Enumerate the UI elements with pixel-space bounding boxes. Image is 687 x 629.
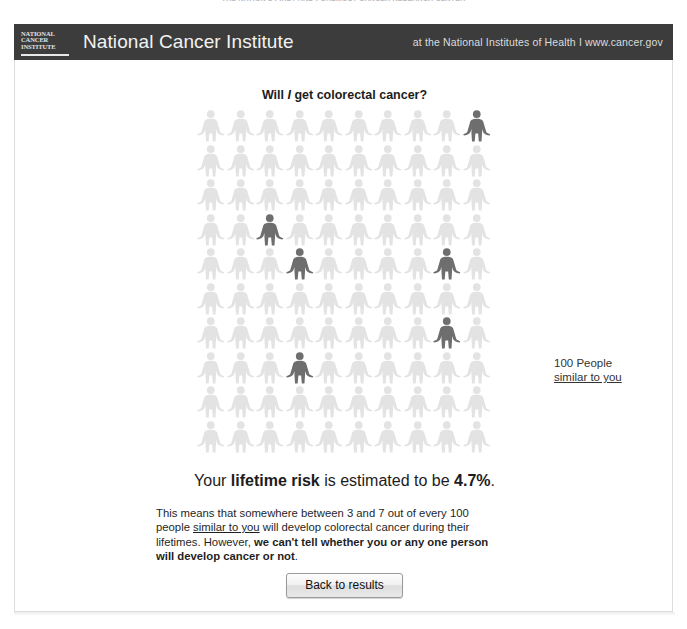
pictogram-person <box>196 419 226 454</box>
page-title-prefix: Will <box>262 88 288 102</box>
pictogram-person <box>314 384 344 419</box>
content-panel: Will I get colorectal cancer? 100 People… <box>14 60 673 612</box>
pictogram-person <box>432 143 462 178</box>
pictogram-person <box>255 177 285 212</box>
legend-similar-to-you-link[interactable]: similar to you <box>554 370 622 384</box>
pictogram-person <box>403 212 433 247</box>
pictogram-person <box>285 143 315 178</box>
pictogram-person <box>462 315 492 350</box>
page-title: Will I get colorectal cancer? <box>15 88 674 102</box>
pictogram-person <box>344 281 374 316</box>
pictogram-person <box>432 281 462 316</box>
pictogram-person <box>432 419 462 454</box>
pictogram-person <box>373 384 403 419</box>
explanation-part-3: . <box>295 550 298 562</box>
pictogram-person-highlighted <box>432 315 462 350</box>
pictogram-person <box>344 350 374 385</box>
pictogram-person-highlighted <box>462 108 492 143</box>
pictogram-person <box>255 384 285 419</box>
pictogram-person <box>462 281 492 316</box>
risk-prefix: Your <box>194 472 231 489</box>
pictogram-person <box>314 177 344 212</box>
pictogram-person <box>226 315 256 350</box>
pictogram-person <box>344 177 374 212</box>
pictogram-person <box>255 419 285 454</box>
pictogram-person <box>314 108 344 143</box>
pictogram-person <box>403 350 433 385</box>
pictogram-person <box>226 419 256 454</box>
pictogram-person <box>255 246 285 281</box>
pictogram-person <box>314 246 344 281</box>
pictogram-person <box>403 384 433 419</box>
pictogram-person <box>196 281 226 316</box>
pictogram-person <box>285 315 315 350</box>
site-title: National Cancer Institute <box>83 31 294 53</box>
pictogram-person <box>196 212 226 247</box>
pictogram-person <box>196 384 226 419</box>
risk-middle: is estimated to be <box>320 472 454 489</box>
back-to-results-button[interactable]: Back to results <box>286 573 403 598</box>
panel-drop-shadow <box>14 612 675 616</box>
pictogram-person <box>462 177 492 212</box>
pictogram-person <box>432 350 462 385</box>
pictogram-person <box>432 212 462 247</box>
pictogram-person <box>314 212 344 247</box>
pictogram-person <box>285 384 315 419</box>
pictogram-person <box>196 143 226 178</box>
pictogram-person <box>462 384 492 419</box>
pictogram-legend: 100 People similar to you <box>554 356 622 384</box>
pictogram-person <box>226 143 256 178</box>
pictogram-person <box>314 419 344 454</box>
pictogram-chart <box>196 108 491 453</box>
page-title-suffix: get colorectal cancer? <box>291 88 427 102</box>
pictogram-person <box>285 281 315 316</box>
pictogram-person <box>285 177 315 212</box>
pictogram-person <box>344 315 374 350</box>
pictogram-person <box>462 246 492 281</box>
explanation-paragraph: This means that somewhere between 3 and … <box>156 506 496 564</box>
pictogram-person <box>373 350 403 385</box>
pictogram-person <box>255 315 285 350</box>
explanation-similar-to-you-link[interactable]: similar to you <box>193 521 260 533</box>
pictogram-person <box>373 143 403 178</box>
pictogram-person <box>344 419 374 454</box>
pictogram-person <box>373 108 403 143</box>
pictogram-person <box>373 281 403 316</box>
pictogram-person <box>226 384 256 419</box>
risk-statement: Your lifetime risk is estimated to be 4.… <box>15 472 674 490</box>
back-button-container: Back to results <box>15 573 674 598</box>
pictogram-person <box>373 315 403 350</box>
pictogram-person <box>432 384 462 419</box>
pictogram-person <box>314 315 344 350</box>
pictogram-person <box>196 108 226 143</box>
nci-logo-line-3: INSTITUTE <box>21 44 69 50</box>
pictogram-person <box>255 281 285 316</box>
pictogram-person <box>432 108 462 143</box>
pictogram-person <box>462 212 492 247</box>
pictogram-person <box>403 143 433 178</box>
nci-logo[interactable]: NATIONAL CANCER INSTITUTE <box>21 28 69 56</box>
risk-suffix: . <box>491 472 495 489</box>
pictogram-person-highlighted <box>285 350 315 385</box>
pictogram-person <box>462 143 492 178</box>
site-tagline: at the National Institutes of Health I w… <box>413 36 663 48</box>
pictogram-person <box>403 419 433 454</box>
pictogram-person <box>373 246 403 281</box>
pictogram-person <box>344 212 374 247</box>
pictogram-person <box>226 246 256 281</box>
pictogram-person <box>196 315 226 350</box>
pictogram-person <box>462 419 492 454</box>
cropped-top-banner-text: THE NATION'S FIRST AND FOREMOST CANCER R… <box>0 0 687 2</box>
pictogram-person <box>403 246 433 281</box>
pictogram-person <box>344 384 374 419</box>
pictogram-person <box>226 350 256 385</box>
pictogram-person <box>344 108 374 143</box>
pictogram-person <box>226 177 256 212</box>
risk-value: 4.7% <box>454 472 490 489</box>
pictogram-person <box>255 108 285 143</box>
pictogram-person <box>226 108 256 143</box>
pictogram-person <box>314 143 344 178</box>
pictogram-person <box>285 419 315 454</box>
pictogram-person <box>226 281 256 316</box>
pictogram-person <box>403 108 433 143</box>
